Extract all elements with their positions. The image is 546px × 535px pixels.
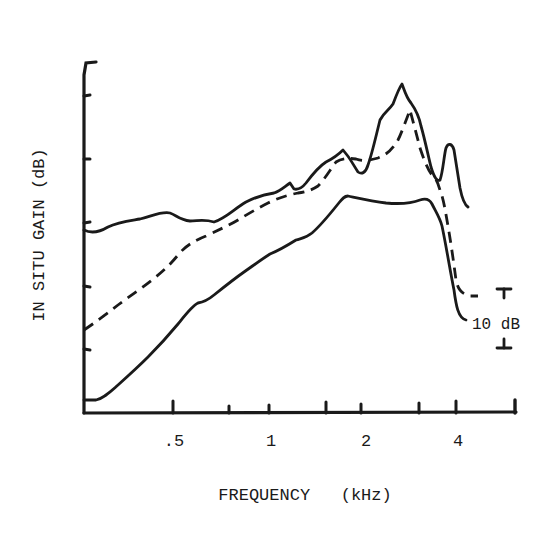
x-tick-label: 1 [266, 432, 276, 451]
y-axis-title: IN SITU GAIN (dB) [30, 148, 49, 321]
x-tick-labels: .5 1 2 4 [164, 432, 463, 451]
chart-svg: .5 1 2 4 FREQUENCY (kHz) IN SITU GAIN (d… [0, 0, 546, 535]
x-tick-label: .5 [164, 432, 184, 451]
x-tick-label: 2 [361, 432, 371, 451]
y-axis [84, 62, 96, 413]
series-upper-solid [84, 84, 468, 232]
x-tick-label: 4 [453, 432, 463, 451]
series-dashed [84, 110, 478, 330]
figure: .5 1 2 4 FREQUENCY (kHz) IN SITU GAIN (d… [0, 0, 546, 535]
x-axis [84, 400, 516, 413]
scale-bar-label: 10 dB [472, 316, 520, 334]
series-lower-solid [84, 196, 466, 400]
x-axis-title: FREQUENCY (kHz) [218, 486, 391, 505]
